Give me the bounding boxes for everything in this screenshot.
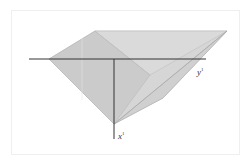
x-axis-label: x1 [118,131,125,141]
y-axis-label: y1 [197,67,204,77]
solid-diagram [0,0,250,163]
